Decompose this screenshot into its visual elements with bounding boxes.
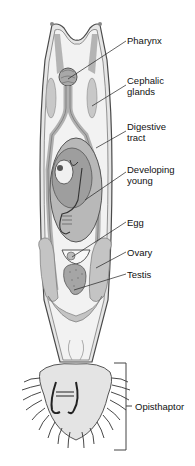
flatworm-diagram (0, 0, 195, 466)
label-opisthaptor: Opisthaptor (135, 401, 184, 412)
pharynx (59, 68, 77, 86)
opisthaptor (22, 364, 130, 448)
label-ovary: Ovary (127, 247, 152, 258)
label-digestive-tract: Digestive tract (127, 121, 166, 143)
label-pharynx: Pharynx (127, 35, 162, 46)
label-egg: Egg (127, 217, 144, 228)
label-testis: Testis (127, 269, 151, 280)
opisthaptor-bracket (114, 363, 132, 450)
label-cephalic-glands: Cephalic glands (127, 75, 164, 97)
developing-young (50, 138, 102, 242)
label-developing-young: Developing young (127, 164, 175, 186)
